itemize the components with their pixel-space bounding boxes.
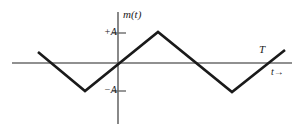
time-axis-label: t→ (271, 67, 284, 77)
amplitude-negative-label: −A (104, 85, 117, 95)
waveform-triangular (38, 32, 285, 92)
period-label: T (259, 44, 265, 55)
signal-label: m(t) (123, 9, 141, 20)
plot-canvas (0, 0, 305, 136)
amplitude-positive-label: +A (104, 27, 117, 37)
triangular-wave-figure: m(t) +A −A T t→ (0, 0, 305, 136)
